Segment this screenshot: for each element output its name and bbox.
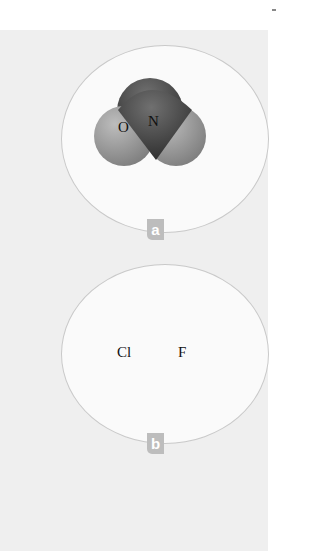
panel-label-b: b [147, 433, 164, 454]
atom-label-o: O [118, 119, 129, 136]
molecule-b-ring [61, 264, 269, 444]
atom-label-f: F [178, 344, 186, 361]
atom-label-cl: Cl [117, 344, 131, 361]
atom-label-n: N [148, 113, 159, 130]
panel-label-a: a [147, 219, 164, 240]
